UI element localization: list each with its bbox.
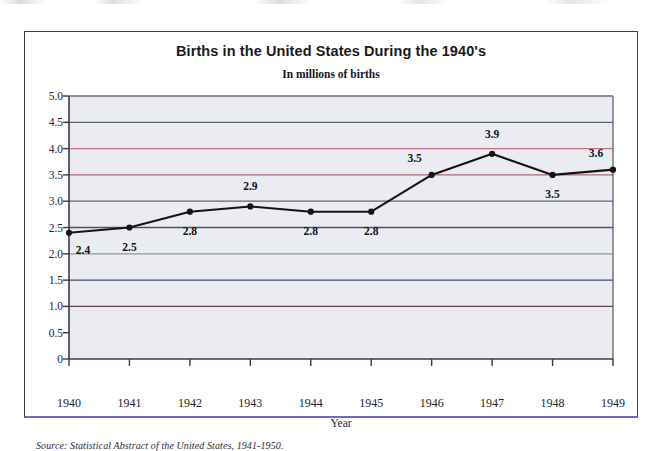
x-tick-label-1940: 1940 [42, 396, 96, 411]
value-label-1949: 3.6 [589, 147, 603, 159]
data-point-1942 [187, 209, 193, 215]
y-tick-label-4.5: 4.5 [29, 116, 63, 128]
plot-area: 2.42.52.82.92.82.83.53.93.53.6 [69, 96, 613, 359]
data-point-1948 [549, 172, 555, 178]
data-point-1941 [126, 224, 132, 230]
page-title: Births in the United States During the 1… [25, 43, 637, 59]
value-label-1945: 2.8 [364, 225, 378, 237]
x-tick-label-1948: 1948 [526, 396, 580, 411]
x-axis-tick-labels: 1940194119421943194419451946194719481949 [69, 396, 613, 414]
y-tick-label-3.5: 3.5 [29, 169, 63, 181]
value-label-1943: 2.9 [243, 180, 257, 192]
source-note: Source: Statistical Abstract of the Unit… [36, 440, 283, 451]
value-label-1948: 3.5 [545, 188, 559, 200]
y-tick-label-5.0: 5.0 [29, 90, 63, 102]
x-tick-label-1949: 1949 [586, 396, 640, 411]
y-axis-tick-labels: 5.04.54.03.53.02.52.01.51.00.50 [25, 96, 63, 359]
y-tick-label-4.0: 4.0 [29, 143, 63, 155]
data-point-1947 [489, 151, 495, 157]
gridlines-group [69, 96, 613, 333]
y-tick-label-0: 0 [29, 353, 63, 365]
x-tick-label-1941: 1941 [102, 396, 156, 411]
x-tick-label-1947: 1947 [465, 396, 519, 411]
value-label-1944: 2.8 [304, 225, 318, 237]
y-tick-label-2.5: 2.5 [29, 222, 63, 234]
x-tick-label-1942: 1942 [163, 396, 217, 411]
data-point-1944 [308, 209, 314, 215]
chart-figure-frame: Births in the United States During the 1… [24, 31, 638, 418]
value-label-1941: 2.5 [122, 241, 136, 253]
births-series-line [69, 154, 613, 233]
data-point-1946 [429, 172, 435, 178]
y-tick-label-0.5: 0.5 [29, 327, 63, 339]
value-label-1946: 3.5 [407, 152, 421, 164]
y-tick-label-1.0: 1.0 [29, 300, 63, 312]
scan-artifact-top-edge [0, 0, 664, 4]
data-point-1940 [66, 230, 72, 236]
x-axis-title: Year [69, 417, 613, 429]
y-tick-label-3.0: 3.0 [29, 195, 63, 207]
value-label-1940: 2.4 [76, 244, 90, 256]
x-tick-label-1943: 1943 [223, 396, 277, 411]
x-tick-label-1945: 1945 [344, 396, 398, 411]
line-chart-svg [69, 96, 613, 359]
data-point-1949 [610, 167, 616, 173]
value-label-1942: 2.8 [183, 225, 197, 237]
y-tick-label-1.5: 1.5 [29, 274, 63, 286]
y-tick-label-2.0: 2.0 [29, 248, 63, 260]
chart-subtitle: In millions of births [25, 68, 637, 80]
x-tick-label-1944: 1944 [284, 396, 338, 411]
data-point-1945 [368, 209, 374, 215]
x-axis-ticks-group [69, 359, 613, 366]
data-point-1943 [247, 203, 253, 209]
x-tick-label-1946: 1946 [405, 396, 459, 411]
y-axis-ticks-group [63, 96, 69, 359]
value-label-1947: 3.9 [485, 128, 499, 140]
